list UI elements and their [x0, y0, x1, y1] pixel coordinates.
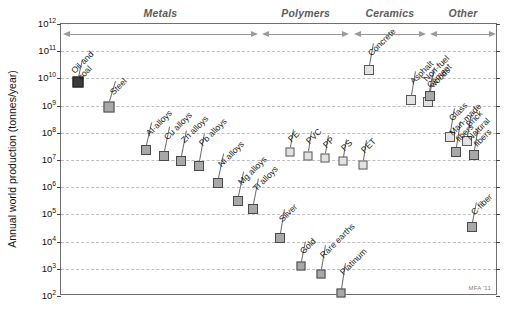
point-label-line: Platinum — [338, 247, 369, 278]
data-point-marker — [275, 233, 285, 243]
data-point-marker — [317, 269, 326, 278]
y-tick-mark — [496, 160, 500, 161]
data-point-marker — [194, 161, 204, 171]
arrow-line — [69, 34, 251, 35]
data-point-marker — [406, 95, 416, 105]
y-tick-label: 1012 — [0, 17, 56, 29]
y-tick-mark — [57, 78, 61, 79]
arrow-right-icon — [419, 31, 426, 37]
category-arrow — [430, 31, 496, 38]
data-point-marker — [364, 65, 374, 75]
point-label-line: Rare earths — [318, 221, 357, 260]
data-point-marker — [425, 91, 435, 101]
y-tick-mark — [496, 24, 500, 25]
gridline — [61, 187, 496, 188]
y-tick-label: 105 — [0, 207, 56, 219]
gridline — [61, 133, 496, 134]
point-label: Rare earths — [318, 221, 357, 260]
y-tick-mark — [57, 133, 61, 134]
arrow-right-icon — [251, 31, 258, 37]
category-arrow — [63, 31, 257, 38]
point-label-line: C-fiber — [469, 191, 494, 216]
category-band-other: Other — [430, 23, 496, 45]
y-tick-mark — [57, 160, 61, 161]
y-tick-label: 1011 — [0, 44, 56, 56]
point-label: Ni alloys — [216, 139, 246, 169]
category-label: Ceramics — [365, 7, 414, 19]
data-point-marker — [303, 151, 312, 160]
point-label: Gold — [298, 236, 318, 256]
data-point-marker — [358, 160, 367, 169]
category-label: Other — [449, 7, 478, 19]
point-label-line: Silver — [276, 201, 298, 223]
point-label-line: PS — [339, 138, 354, 153]
y-tick-label: 102 — [0, 289, 56, 301]
point-label: PP — [321, 135, 336, 150]
data-point-marker — [233, 196, 243, 206]
y-tick-mark — [496, 269, 500, 270]
point-label-line: Ni alloys — [216, 139, 246, 169]
y-tick-mark — [496, 133, 500, 134]
point-label-line: Gold — [298, 236, 318, 256]
y-tick-mark — [57, 214, 61, 215]
category-band-metals: Metals — [63, 23, 257, 45]
data-point-marker — [451, 147, 461, 157]
point-label: Platinum — [338, 247, 369, 278]
arrow-line — [268, 34, 343, 35]
y-tick-label: 109 — [0, 99, 56, 111]
data-point-marker — [469, 150, 479, 160]
point-label: PET — [358, 136, 377, 155]
chart-root: Annual world production (tonnes/year) 10… — [0, 0, 525, 322]
data-point-marker — [104, 101, 115, 112]
category-label: Polymers — [281, 7, 330, 19]
y-tick-mark — [57, 242, 61, 243]
data-point-marker — [336, 289, 345, 298]
data-point-marker — [176, 156, 186, 166]
point-label-line: PP — [321, 135, 336, 150]
y-tick-mark — [496, 78, 500, 79]
category-band-polymers: Polymers — [262, 23, 349, 45]
data-point-marker — [467, 222, 477, 232]
point-label: C-fiber — [469, 191, 494, 216]
y-tick-mark — [57, 269, 61, 270]
gridline — [61, 51, 496, 52]
y-tick-label: 107 — [0, 153, 56, 165]
data-point-marker — [248, 204, 258, 214]
y-tick-mark — [496, 187, 500, 188]
y-tick-mark — [57, 187, 61, 188]
y-tick-mark — [496, 51, 500, 52]
y-tick-label: 108 — [0, 126, 56, 138]
data-point-marker — [286, 147, 295, 156]
arrow-right-icon — [342, 31, 349, 37]
gridline — [61, 160, 496, 161]
point-label: Silver — [276, 201, 298, 223]
arrow-line — [436, 34, 490, 35]
y-tick-mark — [57, 51, 61, 52]
arrow-right-icon — [489, 31, 496, 37]
point-label-line: PET — [358, 136, 377, 155]
category-arrow — [262, 31, 349, 38]
gridline — [61, 269, 496, 270]
point-label-line: PE — [286, 129, 301, 144]
y-tick-mark — [496, 242, 500, 243]
y-tick-mark — [57, 24, 61, 25]
data-point-marker — [338, 157, 347, 166]
point-label: PS — [339, 138, 354, 153]
data-point-marker — [141, 145, 151, 155]
y-tick-label: 106 — [0, 180, 56, 192]
y-tick-mark — [57, 106, 61, 107]
y-tick-mark — [496, 106, 500, 107]
y-tick-label: 104 — [0, 235, 56, 247]
point-label: PE — [286, 129, 301, 144]
credit-note: MFA '11 — [469, 285, 491, 291]
data-point-marker — [297, 261, 306, 270]
y-tick-label: 103 — [0, 262, 56, 274]
y-tick-mark — [496, 214, 500, 215]
category-label: Metals — [143, 7, 177, 19]
data-point-marker — [213, 178, 223, 188]
data-point-marker — [159, 151, 169, 161]
y-tick-label: 1010 — [0, 71, 56, 83]
plot-area: MetalsPolymersCeramicsOther Oil andcoalS… — [60, 23, 497, 295]
y-tick-mark — [496, 296, 500, 297]
data-point-marker — [321, 153, 330, 162]
